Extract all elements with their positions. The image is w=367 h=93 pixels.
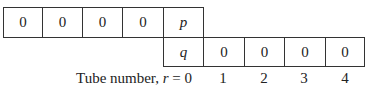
- tube-number-label: Tube number, r = 0: [76, 70, 192, 87]
- upper-cell-1: 0: [42, 7, 83, 38]
- tube-number-2: 2: [244, 70, 284, 87]
- tube-number-1: 1: [203, 70, 243, 87]
- lower-cell-q: q: [163, 37, 204, 67]
- label-prefix: Tube number,: [76, 70, 163, 86]
- lower-cell-3: 0: [284, 37, 326, 67]
- lower-cell-1: 0: [203, 37, 245, 67]
- tube-number-3: 3: [284, 70, 324, 87]
- upper-cell-0: 0: [3, 7, 43, 38]
- upper-cell-p: p: [163, 7, 204, 38]
- lower-cell-4: 0: [325, 37, 365, 67]
- upper-cell-2: 0: [82, 7, 123, 38]
- tube-number-4: 4: [325, 70, 365, 87]
- upper-cell-3: 0: [122, 7, 164, 38]
- lower-cell-2: 0: [244, 37, 285, 67]
- label-suffix: = 0: [169, 70, 192, 86]
